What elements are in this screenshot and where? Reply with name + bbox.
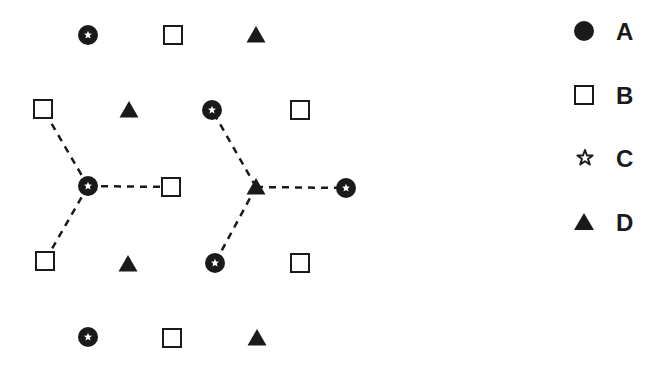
dashed-bond-line [256,187,346,188]
legend-item-b: B [575,82,633,109]
dashed-bond-line [212,110,256,187]
dashed-bond-line [45,186,88,261]
node-d [248,329,267,346]
node-b [291,254,309,272]
filled-triangle-icon [120,101,139,118]
filled-triangle-icon [119,255,138,272]
lattice-nodes [34,25,356,347]
legend-item-a: A [574,18,633,45]
node-a [336,178,356,198]
node-b [164,26,182,44]
dashed-bond-line [43,109,88,186]
node-b [36,252,54,270]
node-b [162,178,180,196]
filled-triangle-icon [248,329,267,346]
node-a [78,327,98,347]
star-icon [577,150,592,165]
open-square-icon [291,254,309,272]
node-b [34,100,52,118]
open-square-icon [163,329,181,347]
node-a [205,253,225,273]
node-d [119,255,138,272]
legend-item-d: D [574,209,633,236]
open-square-icon [36,252,54,270]
legend-label-d: D [616,209,633,236]
lattice-diagram: A B C D [0,0,671,369]
open-square-icon [575,86,593,104]
filled-triangle-icon [247,26,266,43]
open-square-icon [162,178,180,196]
open-square-icon [291,101,309,119]
legend-item-c: C [577,145,633,172]
dashed-bond-line [88,186,171,187]
legend-label-b: B [616,82,633,109]
node-b [163,329,181,347]
open-square-icon [34,100,52,118]
open-square-icon [164,26,182,44]
node-b [291,101,309,119]
node-d [120,101,139,118]
dashed-bond-line [215,187,256,263]
node-d [247,26,266,43]
legend-label-c: C [616,145,633,172]
node-a [78,25,98,45]
legend-label-a: A [616,18,633,45]
node-a [202,100,222,120]
filled-triangle-icon [574,213,594,230]
node-a [78,176,98,196]
filled-circle-icon [574,21,594,41]
legend: A B C D [574,18,633,236]
